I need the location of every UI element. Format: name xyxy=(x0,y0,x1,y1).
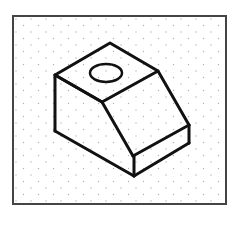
dot-grid xyxy=(13,16,226,204)
isometric-drawing xyxy=(0,0,239,225)
